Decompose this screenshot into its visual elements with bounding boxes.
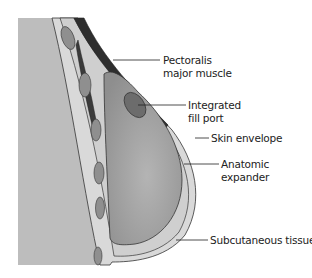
rib xyxy=(94,162,104,184)
diagram-canvas: Pectoralis major muscle Integrated fill … xyxy=(0,0,312,278)
label-pectoralis: Pectoralis major muscle xyxy=(163,54,232,80)
label-expander-line1: Anatomic xyxy=(221,158,269,171)
label-skin-envelope: Skin envelope xyxy=(211,132,282,145)
label-skin-line1: Skin envelope xyxy=(211,132,282,145)
rib xyxy=(91,119,101,141)
label-fill-port-line2: fill port xyxy=(188,112,241,125)
label-pectoralis-line1: Pectoralis xyxy=(163,54,232,67)
label-fill-port-line1: Integrated xyxy=(188,99,241,112)
label-subcutaneous-tissue: Subcutaneous tissue xyxy=(210,234,312,247)
rib xyxy=(79,73,91,97)
rib xyxy=(96,197,105,219)
label-expander-line2: expander xyxy=(221,171,269,184)
anatomic-expander xyxy=(104,72,182,245)
label-fill-port: Integrated fill port xyxy=(188,99,241,125)
label-pectoralis-line2: major muscle xyxy=(163,67,232,80)
label-anatomic-expander: Anatomic expander xyxy=(221,158,269,184)
rib xyxy=(94,247,102,265)
label-subcutaneous-line1: Subcutaneous tissue xyxy=(210,234,312,247)
